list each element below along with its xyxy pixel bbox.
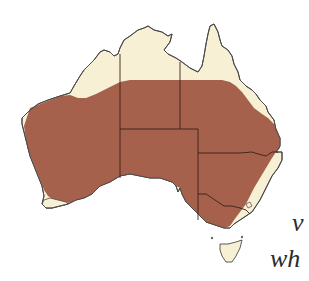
island-dot xyxy=(241,236,243,238)
island-dot xyxy=(211,237,213,239)
tasmania xyxy=(220,240,242,262)
australia-map xyxy=(0,0,309,281)
caption-line-2: wh xyxy=(270,244,300,274)
caption-line-1: v xyxy=(292,208,304,238)
